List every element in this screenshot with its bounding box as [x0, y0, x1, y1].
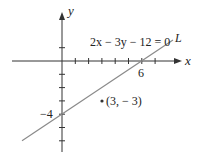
- point-label: (3, − 3): [106, 95, 142, 107]
- x-intercept-label: 6: [138, 67, 144, 79]
- x-axis-label: x: [185, 54, 191, 67]
- point-3-neg3: [100, 99, 103, 102]
- y-axis-label: y: [68, 4, 74, 17]
- x-axis-arrow-icon: [174, 58, 182, 64]
- line-L: [22, 40, 173, 141]
- graph-figure: y x 2x − 3y − 12 = 0 L 6 −4 (3, − 3): [0, 0, 199, 160]
- line-L-label: L: [175, 32, 182, 44]
- equation-label: 2x − 3y − 12 = 0: [90, 36, 170, 48]
- y-axis-arrow-icon: [59, 12, 65, 20]
- y-intercept-label: −4: [40, 108, 53, 120]
- graph-svg: [0, 0, 199, 160]
